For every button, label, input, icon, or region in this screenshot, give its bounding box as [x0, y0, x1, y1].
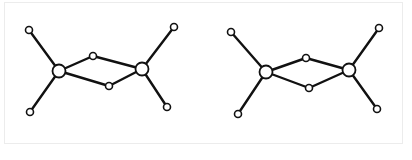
bond-leaf_tl-hub_l	[231, 32, 266, 72]
atom-node-mid_t	[303, 55, 310, 62]
bond-hub_r-leaf_tr	[142, 27, 174, 69]
atom-node-leaf_bl	[27, 109, 34, 116]
bond-mid_t-hub_r	[93, 56, 142, 69]
molecule-right	[228, 25, 383, 118]
bond-hub_r-leaf_tr	[349, 28, 379, 70]
bond-hub_l-mid_b	[59, 71, 109, 86]
atom-node-hub_r	[343, 64, 356, 77]
atom-node-hub_l	[53, 65, 66, 78]
bond-leaf_tl-hub_l	[29, 30, 59, 71]
atom-node-leaf_br	[164, 104, 171, 111]
atom-node-leaf_tl	[228, 29, 235, 36]
bond-leaf_bl-hub_l	[238, 72, 266, 114]
atom-node-leaf_br	[374, 106, 381, 113]
atom-node-leaf_tr	[376, 25, 383, 32]
atom-node-leaf_tl	[26, 27, 33, 34]
atom-node-hub_r	[136, 63, 149, 76]
atom-node-hub_l	[260, 66, 273, 79]
molecule-diagram	[0, 0, 412, 160]
molecule-left	[26, 24, 178, 116]
atom-node-mid_t	[90, 53, 97, 60]
bond-leaf_bl-hub_l	[30, 71, 59, 112]
atom-node-mid_b	[306, 85, 313, 92]
atom-node-leaf_bl	[235, 111, 242, 118]
atom-node-mid_b	[106, 83, 113, 90]
atom-node-leaf_tr	[171, 24, 178, 31]
